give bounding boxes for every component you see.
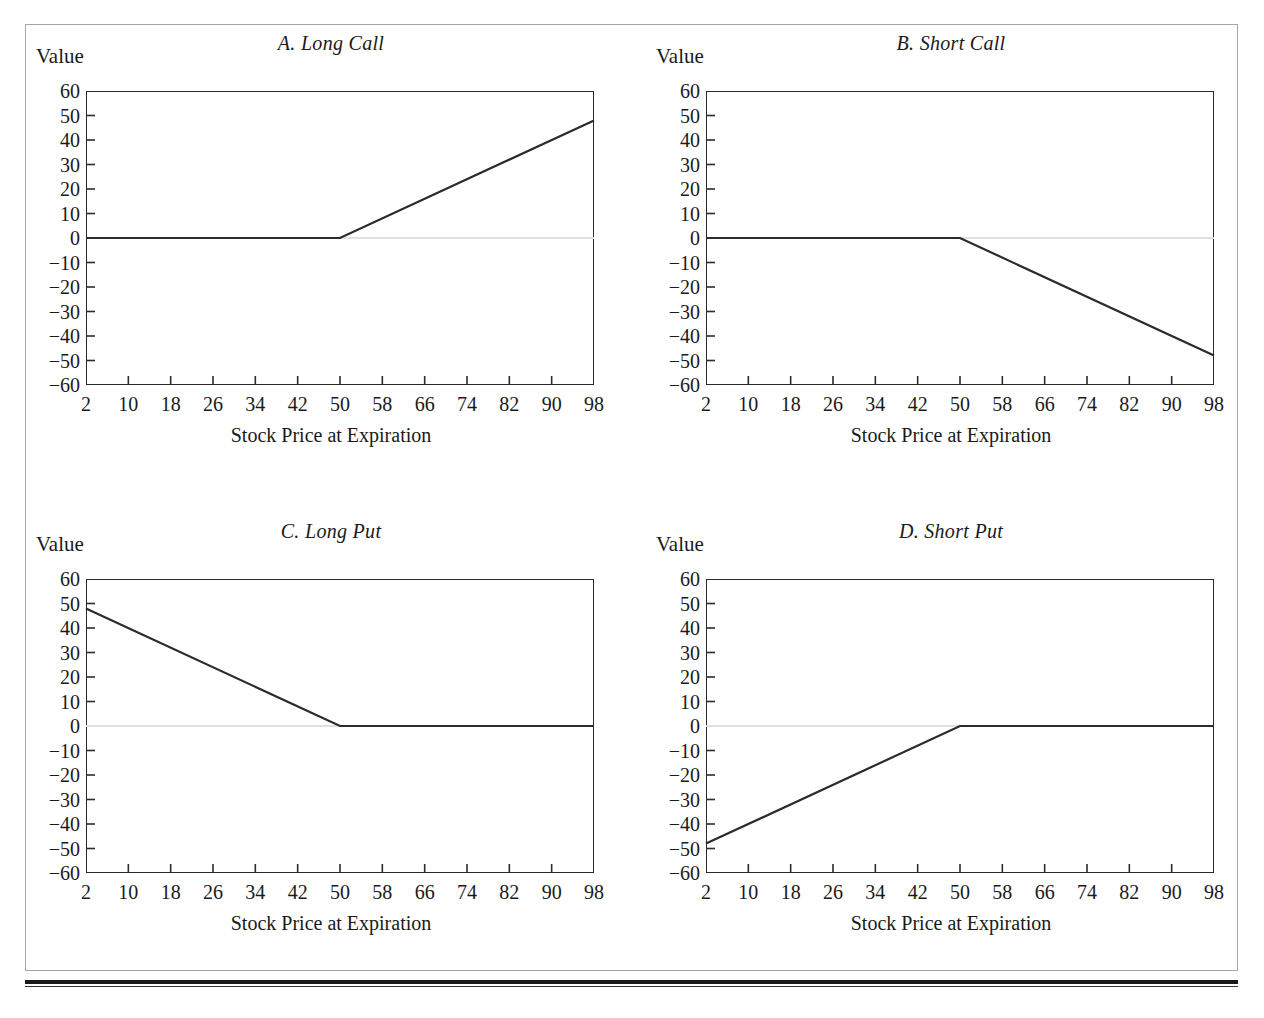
- plot-area: 6050403020100−10−20−30−40−50−60 21018263…: [706, 579, 1214, 873]
- y-tick-label: 20: [650, 179, 700, 199]
- y-tick-label: −10: [650, 253, 700, 273]
- x-tick-label: 26: [193, 393, 233, 415]
- x-tick-label: 34: [855, 393, 895, 415]
- x-tick-labels: 2101826344250586674829098: [706, 877, 1214, 907]
- y-tick-label: −60: [30, 375, 80, 395]
- y-tick-label: 40: [650, 130, 700, 150]
- x-tick-label: 98: [1194, 881, 1234, 903]
- x-axis-title: Stock Price at Expiration: [25, 424, 637, 447]
- y-tick-label: −50: [650, 839, 700, 859]
- x-tick-label: 90: [1152, 881, 1192, 903]
- y-tick-label: 60: [650, 569, 700, 589]
- y-tick-label: 60: [650, 81, 700, 101]
- y-axis-title: Value: [36, 44, 84, 69]
- y-tick-label: 60: [30, 81, 80, 101]
- x-tick-label: 90: [1152, 393, 1192, 415]
- payoff-line-chart: [86, 579, 594, 873]
- x-tick-label: 66: [405, 881, 445, 903]
- x-tick-labels: 2101826344250586674829098: [86, 877, 594, 907]
- y-tick-label: −20: [650, 765, 700, 785]
- y-tick-label: −20: [30, 277, 80, 297]
- x-tick-label: 50: [320, 881, 360, 903]
- x-tick-label: 90: [532, 393, 572, 415]
- x-tick-label: 90: [532, 881, 572, 903]
- y-tick-label: −30: [30, 790, 80, 810]
- y-tick-label: −50: [30, 839, 80, 859]
- x-tick-label: 74: [447, 881, 487, 903]
- panel-d-short-put: D. Short Put Value 6050403020100−10−20−3…: [645, 512, 1257, 967]
- clipped-text-above-figure: · · · · · · ·: [60, 0, 1160, 5]
- y-tick-label: −60: [650, 863, 700, 883]
- y-tick-label: 40: [30, 618, 80, 638]
- y-tick-label: −10: [30, 741, 80, 761]
- y-tick-label: 40: [650, 618, 700, 638]
- y-tick-label: −50: [650, 351, 700, 371]
- y-tick-label: −60: [650, 375, 700, 395]
- y-tick-label: −40: [650, 326, 700, 346]
- y-tick-label: 0: [650, 716, 700, 736]
- y-tick-label: −10: [30, 253, 80, 273]
- panel-title: A. Long Call: [25, 32, 637, 55]
- y-tick-label: 10: [650, 204, 700, 224]
- x-tick-label: 74: [447, 393, 487, 415]
- x-axis-title: Stock Price at Expiration: [645, 912, 1257, 935]
- plot-area: 6050403020100−10−20−30−40−50−60 21018263…: [706, 91, 1214, 385]
- payoff-line-chart: [706, 579, 1214, 873]
- x-tick-label: 34: [235, 881, 275, 903]
- x-tick-label: 34: [855, 881, 895, 903]
- panel-title: B. Short Call: [645, 32, 1257, 55]
- x-tick-label: 42: [278, 881, 318, 903]
- x-tick-label: 18: [151, 393, 191, 415]
- y-tick-label: 10: [30, 692, 80, 712]
- x-tick-label: 58: [982, 393, 1022, 415]
- x-tick-label: 42: [898, 881, 938, 903]
- x-tick-label: 2: [66, 881, 106, 903]
- x-tick-labels: 2101826344250586674829098: [706, 389, 1214, 419]
- y-tick-label: 30: [650, 643, 700, 663]
- y-axis-title: Value: [656, 44, 704, 69]
- y-tick-label: −20: [650, 277, 700, 297]
- x-tick-label: 18: [771, 881, 811, 903]
- x-tick-label: 26: [193, 881, 233, 903]
- x-tick-label: 10: [108, 881, 148, 903]
- plot-area: 6050403020100−10−20−30−40−50−60 21018263…: [86, 91, 594, 385]
- payoff-line-chart: [706, 91, 1214, 385]
- x-tick-label: 98: [574, 881, 614, 903]
- x-tick-label: 50: [320, 393, 360, 415]
- x-tick-label: 42: [898, 393, 938, 415]
- x-tick-label: 74: [1067, 393, 1107, 415]
- y-tick-label: 30: [30, 155, 80, 175]
- x-tick-label: 2: [686, 393, 726, 415]
- y-tick-label: −40: [30, 326, 80, 346]
- x-tick-label: 82: [489, 881, 529, 903]
- y-tick-label: 30: [650, 155, 700, 175]
- y-tick-label: −50: [30, 351, 80, 371]
- x-tick-label: 2: [686, 881, 726, 903]
- y-tick-label: −10: [650, 741, 700, 761]
- x-tick-label: 10: [728, 881, 768, 903]
- x-tick-label: 18: [771, 393, 811, 415]
- x-tick-label: 82: [1109, 393, 1149, 415]
- y-axis-title: Value: [36, 532, 84, 557]
- y-tick-label: −40: [30, 814, 80, 834]
- x-axis-title: Stock Price at Expiration: [645, 424, 1257, 447]
- y-tick-label: −60: [30, 863, 80, 883]
- y-tick-label: 10: [30, 204, 80, 224]
- x-tick-label: 50: [940, 881, 980, 903]
- y-tick-label: 40: [30, 130, 80, 150]
- x-tick-label: 26: [813, 881, 853, 903]
- x-tick-label: 42: [278, 393, 318, 415]
- x-tick-label: 58: [362, 881, 402, 903]
- y-tick-labels: 6050403020100−10−20−30−40−50−60: [650, 579, 700, 873]
- x-tick-label: 66: [1025, 881, 1065, 903]
- y-tick-label: 30: [30, 643, 80, 663]
- panel-title: D. Short Put: [645, 520, 1257, 543]
- x-tick-label: 82: [489, 393, 529, 415]
- x-tick-label: 58: [362, 393, 402, 415]
- x-tick-label: 10: [728, 393, 768, 415]
- y-tick-labels: 6050403020100−10−20−30−40−50−60: [650, 91, 700, 385]
- y-tick-label: 50: [30, 594, 80, 614]
- figure-bottom-rule: [25, 980, 1238, 984]
- panel-b-short-call: B. Short Call Value 6050403020100−10−20−…: [645, 24, 1257, 479]
- x-tick-label: 66: [1025, 393, 1065, 415]
